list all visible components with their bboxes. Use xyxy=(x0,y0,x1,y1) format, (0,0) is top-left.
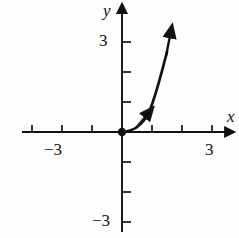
y-axis-label: y xyxy=(103,2,111,19)
graph-figure: y x 3 −3 −3 3 xyxy=(0,0,239,238)
curve-direction-arrow xyxy=(136,116,146,128)
x-tick-label-negative-3: −3 xyxy=(44,141,62,158)
x-axis-label: x xyxy=(227,108,235,125)
y-axis xyxy=(122,12,131,232)
x-tick-label-positive-3: 3 xyxy=(205,141,214,158)
function-curve xyxy=(118,36,170,136)
curve-path xyxy=(122,52,167,132)
y-tick-label-negative-3: −3 xyxy=(92,212,110,229)
y-tick-label-positive-3: 3 xyxy=(99,32,108,49)
origin-point-marker xyxy=(118,128,126,136)
coordinate-plane-svg xyxy=(0,0,239,238)
